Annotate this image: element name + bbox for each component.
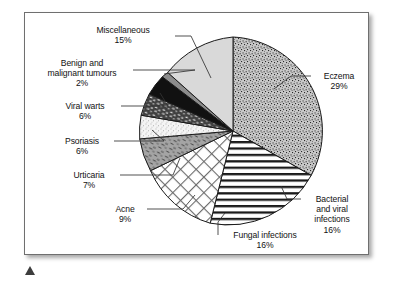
label-psoriasis-name: Psoriasis bbox=[65, 136, 99, 146]
label-bacterial-line3: infections bbox=[303, 214, 361, 224]
label-acne-pct: 9% bbox=[103, 214, 147, 224]
label-acne-name: Acne bbox=[115, 204, 134, 214]
label-urticaria-pct: 7% bbox=[58, 180, 120, 190]
label-eczema-name: Eczema bbox=[324, 71, 354, 81]
label-tumours-pct: 2% bbox=[31, 78, 133, 88]
figure-page: Miscellaneous 15% Benign and malignant t… bbox=[24, 12, 369, 255]
label-urticaria-name: Urticaria bbox=[73, 170, 104, 180]
label-miscellaneous-name: Miscellaneous bbox=[96, 25, 149, 35]
up-arrow-marker bbox=[25, 266, 35, 275]
label-eczema-pct: 29% bbox=[313, 81, 365, 91]
label-fungal-name: Fungal infections bbox=[233, 230, 296, 240]
label-urticaria: Urticaria 7% bbox=[58, 170, 120, 190]
label-tumours-line1: Benign and bbox=[61, 58, 104, 68]
label-psoriasis: Psoriasis 6% bbox=[50, 136, 114, 156]
label-fungal-pct: 16% bbox=[221, 240, 309, 250]
label-fungal-infections: Fungal infections 16% bbox=[221, 230, 309, 250]
label-viral-warts-name: Viral warts bbox=[66, 101, 105, 111]
label-miscellaneous: Miscellaneous 15% bbox=[71, 25, 175, 45]
label-acne: Acne 9% bbox=[103, 204, 147, 224]
label-bacterial-and-viral-infections: Bacterial and viral infections 16% bbox=[303, 194, 361, 235]
label-bacterial-line2: and viral bbox=[303, 204, 361, 214]
label-bacterial-line1: Bacterial bbox=[316, 194, 349, 204]
label-psoriasis-pct: 6% bbox=[50, 146, 114, 156]
label-benign-and-malignant-tumours: Benign and malignant tumours 2% bbox=[31, 58, 133, 89]
pie-slices bbox=[139, 37, 322, 225]
label-eczema: Eczema 29% bbox=[313, 71, 365, 91]
label-viral-warts-pct: 6% bbox=[49, 111, 121, 121]
label-bacterial-pct: 16% bbox=[303, 225, 361, 235]
label-miscellaneous-pct: 15% bbox=[71, 35, 175, 45]
label-tumours-line2: malignant tumours bbox=[31, 68, 133, 78]
label-viral-warts: Viral warts 6% bbox=[49, 101, 121, 121]
